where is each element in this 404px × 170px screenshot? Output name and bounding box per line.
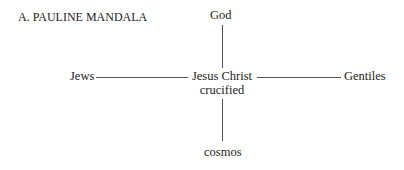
node-crucified: crucified (186, 83, 258, 97)
diagram-title: A. PAULINE MANDALA (18, 10, 147, 24)
node-gentiles: Gentiles (344, 69, 386, 83)
connector-left (96, 77, 188, 78)
connector-right (257, 77, 341, 78)
connector-bottom (222, 99, 223, 141)
node-jews: Jews (70, 69, 94, 83)
node-cosmos: cosmos (204, 145, 242, 159)
node-jesus-christ: Jesus Christ (186, 69, 258, 83)
node-god: God (210, 8, 232, 22)
connector-top (222, 25, 223, 68)
